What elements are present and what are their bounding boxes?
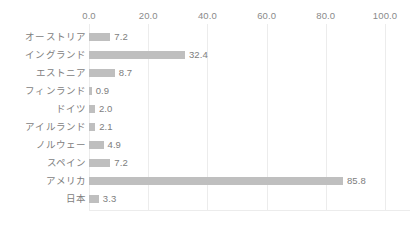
bar-container: 85.8: [89, 172, 410, 190]
x-tick-label: 0.0: [82, 9, 96, 23]
bar-container: 3.3: [89, 190, 410, 208]
bar-container: 0.9: [89, 82, 410, 100]
category-label: オーストリア: [25, 28, 86, 46]
x-axis-tick-labels: 0.020.040.060.080.0100.0: [0, 9, 410, 23]
category-label: ドイツ: [56, 100, 86, 118]
category-label: アイルランド: [25, 118, 86, 136]
bar[interactable]: [89, 177, 343, 185]
bar-row: ノルウェー4.9: [0, 136, 410, 154]
bar[interactable]: [89, 123, 95, 131]
bar-row: アイルランド2.1: [0, 118, 410, 136]
category-label: スペイン: [47, 154, 86, 172]
bar-row: スペイン7.2: [0, 154, 410, 172]
bar-value-label: 7.2: [114, 154, 128, 172]
bar-value-label: 85.8: [347, 172, 366, 190]
bar-value-label: 2.1: [99, 118, 113, 136]
category-label: アメリカ: [46, 172, 86, 190]
bar-row: ドイツ2.0: [0, 100, 410, 118]
bar[interactable]: [89, 195, 99, 203]
x-tick-label: 100.0: [373, 9, 397, 23]
bar-value-label: 2.0: [99, 100, 113, 118]
bar-row: アメリカ85.8: [0, 172, 410, 190]
bar-row: イングランド32.4: [0, 46, 410, 64]
x-tick-label: 40.0: [198, 9, 217, 23]
bar[interactable]: [89, 69, 115, 77]
bar-container: 2.1: [89, 118, 410, 136]
category-label: エストニア: [36, 64, 87, 82]
bar-container: 4.9: [89, 136, 410, 154]
bar[interactable]: [89, 87, 92, 95]
x-tick-label: 20.0: [139, 9, 158, 23]
bar-container: 32.4: [89, 46, 410, 64]
category-label: 日本: [66, 190, 86, 208]
bar-container: 2.0: [89, 100, 410, 118]
x-tick-label: 60.0: [257, 9, 276, 23]
bar[interactable]: [89, 33, 110, 41]
bar-row: オーストリア7.2: [0, 28, 410, 46]
bar[interactable]: [89, 159, 110, 167]
bar-value-label: 3.3: [103, 190, 117, 208]
bar-container: 7.2: [89, 154, 410, 172]
bar-rows: オーストリア7.2イングランド32.4エストニア8.7フィンランド0.9ドイツ2…: [0, 28, 410, 208]
bar-chart: 0.020.040.060.080.0100.0 オーストリア7.2イングランド…: [0, 0, 410, 225]
bar-row: エストニア8.7: [0, 64, 410, 82]
bar-value-label: 7.2: [114, 28, 128, 46]
bar-row: フィンランド0.9: [0, 82, 410, 100]
bar-container: 7.2: [89, 28, 410, 46]
category-label: フィンランド: [25, 82, 86, 100]
category-label: ノルウェー: [36, 136, 87, 154]
category-label: イングランド: [25, 46, 86, 64]
bar-value-label: 32.4: [189, 46, 208, 64]
bar[interactable]: [89, 105, 95, 113]
bar-container: 8.7: [89, 64, 410, 82]
bar[interactable]: [89, 141, 104, 149]
bar-value-label: 8.7: [119, 64, 133, 82]
bar-value-label: 0.9: [96, 82, 110, 100]
bar-value-label: 4.9: [108, 136, 122, 154]
bar-row: 日本3.3: [0, 190, 410, 208]
x-tick-label: 80.0: [316, 9, 335, 23]
axis-baseline: [89, 210, 410, 211]
bar[interactable]: [89, 51, 185, 59]
